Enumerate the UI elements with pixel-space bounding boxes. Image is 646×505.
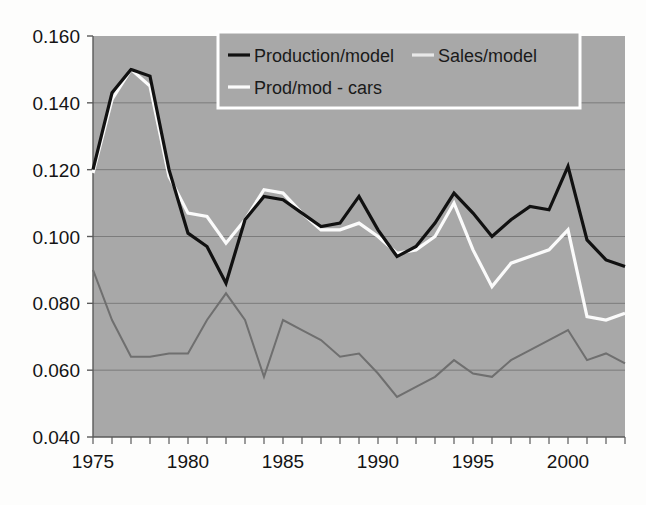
x-tick-label: 2000 — [547, 451, 589, 472]
x-tick-label: 1990 — [357, 451, 399, 472]
line-chart: 0.1600.1400.1200.1000.0800.0600.040 1975… — [0, 0, 646, 505]
x-tick-label: 1995 — [452, 451, 494, 472]
y-tick-label: 0.160 — [32, 26, 80, 47]
y-tick-label: 0.040 — [32, 427, 80, 448]
y-tick-label: 0.140 — [32, 93, 80, 114]
x-tick-label: 1975 — [72, 451, 114, 472]
chart-container: 0.1600.1400.1200.1000.0800.0600.040 1975… — [0, 0, 646, 505]
y-tick-label: 0.100 — [32, 227, 80, 248]
y-axis-ticks: 0.1600.1400.1200.1000.0800.0600.040 — [32, 26, 93, 448]
legend-label: Sales/model — [438, 46, 537, 66]
y-tick-label: 0.060 — [32, 360, 80, 381]
chart-legend: Production/modelSales/modelProd/mod - ca… — [218, 32, 580, 108]
x-axis-ticks: 197519801985199019952000 — [72, 437, 625, 472]
y-tick-label: 0.080 — [32, 293, 80, 314]
x-tick-label: 1985 — [262, 451, 304, 472]
legend-label: Prod/mod - cars — [254, 78, 382, 98]
legend-label: Production/model — [254, 46, 394, 66]
x-tick-label: 1980 — [167, 451, 209, 472]
y-tick-label: 0.120 — [32, 160, 80, 181]
